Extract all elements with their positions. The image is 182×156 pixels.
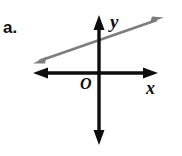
y-axis-arrowhead-top (94, 15, 105, 30)
line-arrowhead-right (150, 17, 164, 23)
y-axis-label: y (110, 12, 118, 31)
y-axis-arrowhead-bottom (94, 130, 105, 145)
y-axis (94, 15, 105, 145)
x-axis (33, 68, 158, 79)
x-axis-arrowhead-right (143, 68, 158, 79)
graph-figure: ··· a. y x O (0, 0, 182, 156)
x-axis-arrowhead-left (33, 68, 48, 79)
line-arrowhead-left (33, 57, 47, 64)
x-axis-label: x (146, 79, 155, 97)
origin-label: O (80, 76, 92, 92)
